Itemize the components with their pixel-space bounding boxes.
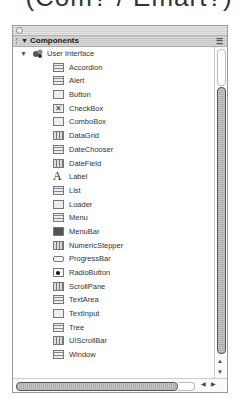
list-item-progressbar[interactable]: ProgressBar: [13, 252, 213, 266]
item-label: DataGrid: [69, 129, 99, 143]
list-item-label[interactable]: ALabel: [13, 170, 213, 184]
tree-folder-user-interface[interactable]: ▼ User Interface: [13, 47, 213, 61]
item-label: Alert: [69, 74, 84, 88]
list-item-accordion[interactable]: Accordion: [13, 61, 213, 75]
item-label: RadioButton: [69, 266, 110, 280]
list-item-scrollpane[interactable]: ScrollPane: [13, 280, 213, 294]
list-item-window[interactable]: Window: [13, 348, 213, 362]
textinput-icon: [53, 309, 64, 318]
list-item-datagrid[interactable]: DataGrid: [13, 129, 213, 143]
horizontal-scroll-track[interactable]: [178, 382, 195, 391]
item-label: DateChooser: [69, 143, 113, 157]
close-icon[interactable]: [16, 27, 23, 34]
textarea-icon: [53, 295, 64, 304]
vertical-scrollbar[interactable]: ▲ ▼: [214, 47, 226, 378]
item-label: Label: [69, 170, 87, 184]
list-item-uiscrollbar[interactable]: UIScrollBar: [13, 334, 213, 348]
list-item-combobox[interactable]: ComboBox: [13, 115, 213, 129]
scroll-down-arrow-icon[interactable]: ▼: [217, 369, 223, 375]
datefield-icon: [53, 159, 64, 168]
button-icon: [53, 90, 64, 99]
window-icon: [53, 350, 64, 359]
alert-icon: [53, 76, 64, 85]
item-label: TextArea: [69, 293, 99, 307]
collapse-triangle-icon[interactable]: ▼: [21, 36, 28, 46]
list-item-list[interactable]: List: [13, 184, 213, 198]
item-label: ProgressBar: [69, 252, 111, 266]
components-panel: ▼ Components ☰ ▼ User Interface Accordio…: [12, 25, 228, 393]
item-label: TextInput: [69, 307, 99, 321]
item-label: ComboBox: [69, 115, 106, 129]
vertical-scroll-thumb[interactable]: [217, 87, 226, 354]
horizontal-scrollbar[interactable]: ◀ ▶: [13, 378, 227, 392]
list-item-radiobutton[interactable]: RadioButton: [13, 266, 213, 280]
item-label: Loader: [69, 198, 92, 212]
disclosure-triangle-icon[interactable]: ▼: [20, 47, 27, 61]
label-icon: A: [53, 172, 64, 181]
radiobutton-icon: [53, 268, 64, 277]
list-item-numericstepper[interactable]: NumericStepper: [13, 239, 213, 253]
uiscrollbar-icon: [53, 336, 64, 345]
checkbox-icon: [53, 104, 64, 113]
item-label: Tree: [69, 321, 84, 335]
combobox-icon: [53, 117, 64, 126]
panel-options-menu-icon[interactable]: ☰: [216, 37, 223, 47]
panel-header[interactable]: ▼ Components ☰: [13, 36, 227, 47]
list-item-button[interactable]: Button: [13, 88, 213, 102]
menu-icon: [53, 213, 64, 222]
item-label: List: [69, 184, 81, 198]
list-item-alert[interactable]: Alert: [13, 74, 213, 88]
tree-folder-label: User Interface: [47, 47, 94, 61]
panel-titlebar[interactable]: [13, 26, 227, 36]
list-item-menu[interactable]: Menu: [13, 211, 213, 225]
list-item-tree[interactable]: Tree: [13, 321, 213, 335]
datechooser-icon: [53, 145, 64, 154]
progressbar-icon: [53, 256, 64, 262]
horizontal-scroll-thumb[interactable]: [16, 382, 178, 391]
list-item-datefield[interactable]: DateField: [13, 157, 213, 171]
list-icon: [53, 186, 64, 195]
item-label: Accordion: [69, 61, 102, 75]
item-label: DateField: [69, 157, 101, 171]
list-item-textarea[interactable]: TextArea: [13, 293, 213, 307]
components-tree: ▼ User Interface Accordion Alert Button …: [13, 47, 213, 378]
tree-icon: [53, 323, 64, 332]
loader-icon: [53, 200, 64, 209]
scroll-left-arrow-icon[interactable]: ◀: [201, 380, 206, 387]
numericstepper-icon: [53, 241, 64, 250]
item-label: Menu: [69, 211, 88, 225]
scroll-right-arrow-icon[interactable]: ▶: [211, 380, 216, 387]
item-label: Window: [69, 348, 96, 362]
datagrid-icon: [53, 131, 64, 140]
list-item-menubar[interactable]: MenuBar: [13, 225, 213, 239]
accordion-icon: [53, 63, 64, 72]
scroll-up-arrow-icon[interactable]: ▲: [217, 358, 223, 364]
grip-icon[interactable]: [16, 38, 19, 44]
item-label: MenuBar: [69, 225, 99, 239]
list-item-checkbox[interactable]: CheckBox: [13, 102, 213, 116]
folder-components-icon: [33, 49, 43, 58]
list-item-textinput[interactable]: TextInput: [13, 307, 213, 321]
item-label: NumericStepper: [69, 239, 123, 253]
scrollpane-icon: [53, 282, 64, 291]
panel-title: Components: [30, 36, 79, 46]
item-label: UIScrollBar: [69, 334, 107, 348]
list-item-datechooser[interactable]: DateChooser: [13, 143, 213, 157]
vertical-scroll-track[interactable]: [217, 49, 226, 86]
item-label: CheckBox: [69, 102, 103, 116]
list-item-loader[interactable]: Loader: [13, 198, 213, 212]
page-heading: (Com? / Emart?): [24, 0, 234, 13]
item-label: ScrollPane: [69, 280, 105, 294]
item-label: Button: [69, 88, 91, 102]
menubar-icon: [53, 227, 64, 236]
